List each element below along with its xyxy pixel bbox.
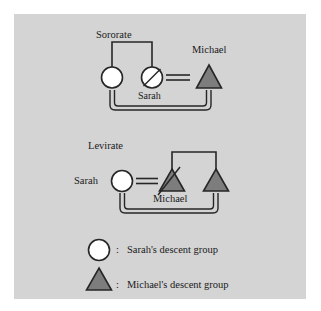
legend-item-0-separator: :	[116, 245, 119, 256]
sororate-sister-circle	[102, 67, 123, 88]
levirate-sarah-label: Sarah	[74, 176, 98, 187]
levirate-title: Levirate	[88, 141, 123, 152]
sororate-title: Sororate	[96, 30, 132, 41]
kinship-diagram-figure: Sororate Sarah Michael Levirate Sarah Mi…	[0, 0, 321, 311]
sororate-sibling-bracket	[112, 42, 152, 72]
sororate-sarah-label: Sarah	[138, 91, 161, 101]
legend-symbols	[87, 240, 112, 291]
diagram-graphics	[0, 0, 321, 311]
levirate-sibling-bracket	[172, 152, 216, 178]
levirate-michael-label: Michael	[153, 194, 187, 205]
levirate-brother-triangle	[204, 169, 229, 191]
legend-circle-symbol	[89, 240, 110, 261]
legend-item-1-label: Michael's descent group	[127, 280, 229, 291]
legend-triangle-symbol	[87, 268, 112, 290]
sororate-michael-triangle	[197, 65, 222, 88]
legend-item-0-label: Sarah's descent group	[127, 245, 218, 256]
levirate-sarah-circle	[112, 171, 133, 192]
sororate-michael-label: Michael	[192, 45, 226, 56]
legend-item-1-separator: :	[116, 280, 119, 291]
